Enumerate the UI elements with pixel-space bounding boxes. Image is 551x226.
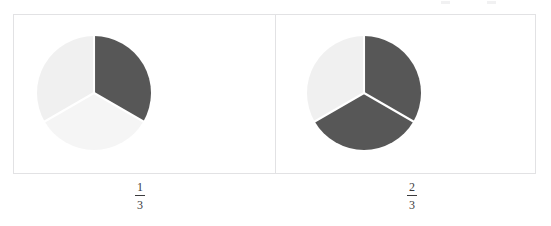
fraction-label-two-thirds: 2 3 xyxy=(392,181,432,211)
pie-holder-right xyxy=(276,15,535,173)
pie-holder-left xyxy=(14,15,275,173)
caption-cell-two-thirds: 2 3 xyxy=(275,181,534,221)
artifact-mark-right xyxy=(487,1,496,4)
pie-chart-one-third xyxy=(33,28,155,162)
fraction-numerator: 1 xyxy=(120,181,160,195)
figure-root: 1 3 2 3 xyxy=(0,0,551,226)
fraction-numerator: 2 xyxy=(392,181,432,195)
fraction-denominator: 3 xyxy=(392,196,432,211)
caption-cell-one-third: 1 3 xyxy=(13,181,275,221)
pie-panel-container xyxy=(13,14,536,174)
pie-chart-two-thirds xyxy=(303,28,425,162)
artifact-mark-left xyxy=(441,1,450,4)
fraction-label-one-third: 1 3 xyxy=(120,181,160,211)
caption-row: 1 3 2 3 xyxy=(13,181,536,221)
panel-two-thirds xyxy=(276,15,535,173)
top-edge-artifacts xyxy=(0,0,551,10)
panel-one-third xyxy=(14,15,276,173)
fraction-denominator: 3 xyxy=(120,196,160,211)
